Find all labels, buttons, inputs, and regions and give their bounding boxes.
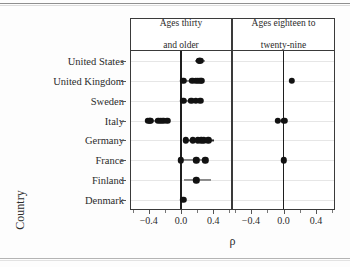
data-point[interactable] [164,117,170,123]
x-axis-tick [149,210,150,214]
x-axis-tick-label: 0.0 [175,215,188,226]
x-axis-minor-tick [267,210,268,213]
data-point[interactable] [193,157,199,163]
zero-reference-line [283,51,285,209]
panel-strip-younger-label: Ages eighteen totwenty-nine [248,18,320,51]
zero-reference-line [180,51,182,209]
y-axis-tick [121,200,126,201]
data-point[interactable] [280,157,286,163]
x-axis-tick [316,210,317,214]
panel-ages-thirty-and-older [130,51,232,210]
page-rule-bottom-secondary [0,260,350,261]
y-axis-tick [121,160,126,161]
data-point[interactable] [197,97,203,103]
y-axis-tick [121,61,126,62]
data-point[interactable] [202,157,208,163]
data-point[interactable] [180,78,186,84]
page-rule-bottom [0,258,350,259]
cropped-caption-ghost [150,0,210,6]
data-point[interactable] [180,97,186,103]
panel-strip-older-label: Ages thirtyand older [156,18,206,51]
data-point[interactable] [178,157,184,163]
y-axis-title: Country [14,190,27,229]
y-axis-label-united-states: United States [68,55,124,66]
data-point[interactable] [205,137,211,143]
x-axis-minor-tick [133,210,134,213]
data-point[interactable] [193,177,199,183]
y-axis-label-finland: Finland [92,175,124,186]
x-axis-tick-label: 0.4 [207,215,220,226]
x-axis-tick-label: −0.4 [140,215,158,226]
data-point[interactable] [180,197,186,203]
x-axis-tick-label: 0.4 [310,215,323,226]
y-axis-tick [121,121,126,122]
y-axis-label-denmark: Denmark [85,195,124,206]
plot-area: Ages thirtyand older Ages eighteen totwe… [130,18,335,210]
panel-strip-younger: Ages eighteen totwenty-nine [232,18,335,51]
data-point[interactable] [199,78,205,84]
x-axis-tick [251,210,252,214]
x-axis-tick [284,210,285,214]
y-axis-tick [121,140,126,141]
y-axis-tick [121,81,126,82]
figure-container: Country Ages thirtyand older Ages eighte… [0,0,350,267]
x-axis-title: ρ [130,235,335,248]
y-axis-tick [121,101,126,102]
data-point[interactable] [281,117,287,123]
data-point[interactable] [183,137,189,143]
x-axis-minor-tick [332,210,333,213]
y-axis-label-united-kingdom: United Kingdom [53,75,124,86]
x-axis-minor-tick [197,210,198,213]
panel-strip-older: Ages thirtyand older [130,18,232,51]
y-axis-label-germany: Germany [85,135,124,146]
x-axis-minor-tick [165,210,166,213]
data-point[interactable] [288,78,294,84]
y-axis-label-france: France [95,155,124,166]
y-axis-tick [121,180,126,181]
x-axis-tick [213,210,214,214]
x-axis-minor-tick [235,210,236,213]
data-point[interactable] [147,117,153,123]
x-axis-tick-label: −0.4 [242,215,260,226]
x-axis-minor-tick [300,210,301,213]
x-axis-tick-label: 0.0 [277,215,290,226]
x-axis-tick [181,210,182,214]
y-axis-label-sweden: Sweden [91,95,124,106]
data-point[interactable] [197,58,203,64]
panel-ages-eighteen-to-twenty-nine [232,51,335,210]
data-point[interactable] [275,117,281,123]
x-axis-minor-tick [229,210,230,213]
